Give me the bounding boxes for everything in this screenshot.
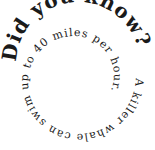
spiral-svg: Did you know? A killer whale can swim up… — [0, 0, 155, 150]
fact-text: A killer whale can swim up to 40 miles p… — [18, 26, 146, 144]
spiral-text-graphic: Did you know? A killer whale can swim up… — [0, 0, 155, 150]
